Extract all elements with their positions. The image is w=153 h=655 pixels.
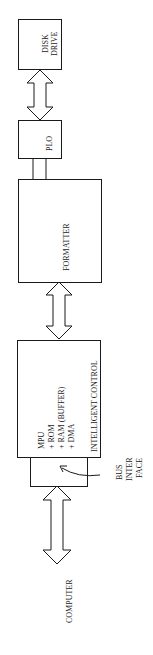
- dma-text: + DMA: [67, 424, 76, 449]
- double-arrow-formatter-control: [46, 282, 72, 339]
- bus-interface-box: [31, 458, 88, 487]
- computer-label: COMPUTER: [56, 579, 74, 627]
- dma-label: + DMA: [58, 424, 76, 453]
- drive-label-text: DRIVE: [50, 32, 59, 56]
- plo-label: PLO: [36, 136, 54, 155]
- computer-text: COMPUTER: [65, 579, 74, 623]
- bus-interface-pointer: [62, 468, 100, 476]
- face-text: FACE: [135, 458, 144, 478]
- intelligent-control-label: INTELLIGENT CONTROL: [81, 360, 99, 456]
- formatter-label: FORMATTER: [53, 223, 71, 275]
- block-diagram: [0, 0, 153, 655]
- drive-label: DRIVE: [41, 32, 59, 60]
- face-label: FACE: [126, 458, 144, 482]
- double-arrow-bus-computer: [43, 486, 71, 564]
- double-arrow-disk-plo: [27, 70, 53, 120]
- plo-label-text: PLO: [45, 136, 54, 151]
- intelligent-control-text: INTELLIGENT CONTROL: [90, 360, 99, 452]
- formatter-label-text: FORMATTER: [62, 223, 71, 271]
